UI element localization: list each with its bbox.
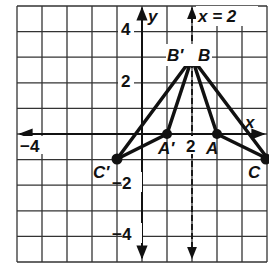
label-a-prime: A′ <box>157 139 175 158</box>
point-a-prime <box>162 129 172 139</box>
label-b: B <box>198 46 210 65</box>
label-a: A <box>205 139 218 158</box>
tick-label-y-4: 4 <box>121 20 131 39</box>
tick-label-y-neg2: −2 <box>112 174 131 193</box>
coordinate-plane: 4 2 −2 −4 −4 2 y x x = 2 B′ B A′ A C C′ <box>0 0 269 267</box>
label-c-prime: C′ <box>93 163 110 182</box>
point-a <box>212 129 222 139</box>
tick-label-y-neg4: −4 <box>112 225 132 244</box>
tick-label-x-2: 2 <box>186 137 195 156</box>
reflection-line-label: x = 2 <box>197 7 237 26</box>
point-c-prime <box>112 154 123 165</box>
label-c: C <box>248 163 261 182</box>
x-axis-label: x <box>244 113 256 132</box>
label-b-prime: B′ <box>167 46 184 65</box>
tick-label-y-2: 2 <box>121 72 130 91</box>
tick-label-x-neg4: −4 <box>20 137 40 156</box>
y-axis-label: y <box>147 7 159 26</box>
